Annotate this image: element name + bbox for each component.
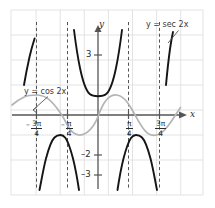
y-tick-label-neg2: –2 [81, 150, 91, 159]
plot-background [0, 0, 215, 208]
x-tick-numerator-pi-4: π [126, 120, 133, 129]
x-tick-label-pi-4: π 4 [126, 120, 133, 137]
plot-canvas [0, 0, 215, 208]
x-tick-denominator-pi-4: 4 [126, 129, 133, 137]
x-tick-label-neg-3pi-4: – 3π 4 [31, 120, 42, 137]
x-tick-numerator-neg-pi-4: π [66, 120, 73, 129]
x-axis-label: x [190, 110, 195, 119]
x-tick-sign-neg-pi-4: – [61, 121, 65, 129]
x-tick-denominator-3pi-4: 4 [155, 129, 166, 137]
sec-curve-annotation: y = sec 2x [146, 21, 188, 29]
x-tick-sign-neg-3pi-4: – [26, 121, 30, 129]
y-tick-label-3: 3 [86, 50, 91, 59]
x-tick-label-neg-pi-4: – π 4 [66, 120, 73, 137]
y-axis-label: y [99, 20, 104, 29]
x-tick-label-3pi-4: 3π 4 [155, 120, 166, 137]
y-tick-label-neg3: –3 [81, 170, 91, 179]
x-tick-denominator-neg-pi-4: 4 [66, 129, 73, 137]
x-tick-numerator-3pi-4: 3π [155, 120, 166, 129]
x-tick-numerator-neg-3pi-4: 3π [31, 120, 42, 129]
chart-figure: y x 3 –2 –3 – 3π 4 – π 4 π 4 3π 4 y = se… [0, 0, 215, 208]
cos-curve-annotation: y = cos 2x [24, 88, 66, 96]
x-tick-denominator-neg-3pi-4: 4 [31, 129, 42, 137]
